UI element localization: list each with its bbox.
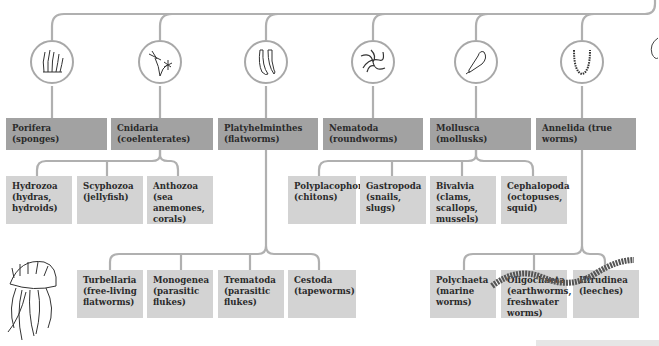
class-cestoda: Cestoda (tapeworms) [288, 270, 356, 318]
class-cephalopoda: Cephalopoda (octopuses, squid) [501, 176, 567, 224]
partial-shell-illustration [649, 36, 659, 62]
jellyfish-illustration [0, 248, 70, 346]
class-polychaeta: Polychaeta (marine worms) [430, 270, 496, 318]
class-polyplacophora: Polyplacophora (chitons) [288, 176, 356, 224]
class-hydrozoa: Hydrozoa (hydras, hydroids) [6, 176, 72, 224]
flatworm-icon [244, 40, 288, 84]
phylum-cnidaria: Cnidaria (coelenterates) [111, 118, 213, 150]
class-trematoda: Trematoda (parasitic flukes) [218, 270, 284, 318]
class-anthozoa: Anthozoa (sea anemones, corals) [147, 176, 213, 224]
phylum-platyhelminthes: Platyhelminthes (flatworms) [218, 118, 318, 150]
hydra-icon [138, 40, 182, 84]
sponge-icon [30, 40, 74, 84]
phylum-annelida: Annelida (true worms) [536, 118, 636, 150]
class-gastropoda: Gastropoda (snails, slugs) [360, 176, 426, 224]
annelid-icon [560, 40, 604, 84]
class-scyphozoa: Scyphozoa (jellyfish) [77, 176, 143, 224]
earthworm-illustration [488, 254, 638, 294]
shell-icon [454, 40, 498, 84]
roundworm-icon [351, 40, 395, 84]
class-bivalvia: Bivalvia (clams, scallops, mussels) [430, 176, 496, 224]
class-turbellaria: Turbellaria (free-living flatworms) [77, 270, 143, 318]
phylum-porifera: Porifera (sponges) [6, 118, 107, 150]
phylum-mollusca: Mollusca (mollusks) [430, 118, 531, 150]
class-monogenea: Monogenea (parasitic flukes) [147, 270, 213, 318]
phylum-nematoda: Nematoda (roundworms) [323, 118, 423, 150]
